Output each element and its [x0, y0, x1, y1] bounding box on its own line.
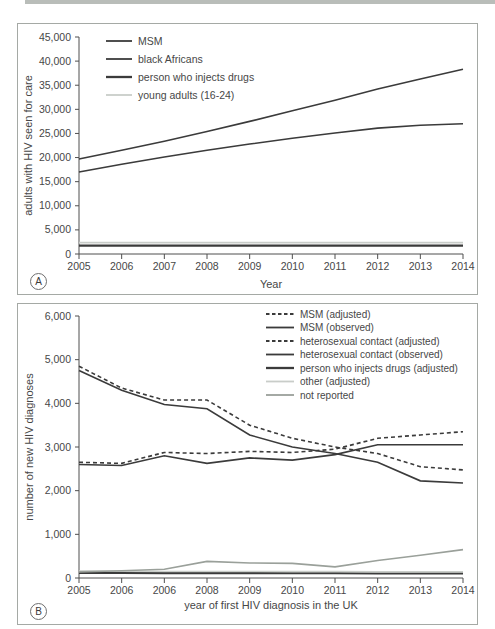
- legend-item-heterosexual-contact-adjusted: heterosexual contact (adjusted): [266, 336, 440, 347]
- x-axis-title: year of first HIV diagnosis in the UK: [184, 599, 358, 611]
- svg-text:2006: 2006: [153, 584, 177, 596]
- x-tick-labels: 2005200620072008200920102011201220132014: [67, 260, 475, 272]
- legend-item-msm-adjusted: MSM (adjusted): [266, 309, 371, 320]
- svg-text:2009: 2009: [238, 260, 262, 272]
- svg-text:2013: 2013: [409, 584, 433, 596]
- svg-text:35,000: 35,000: [39, 79, 71, 91]
- legend-label-msm: MSM: [138, 35, 163, 47]
- svg-text:0: 0: [65, 572, 71, 584]
- legend-item-black-africans: black Africans: [106, 53, 203, 65]
- x-axis-title: Year: [260, 278, 283, 290]
- legend-item-person-who-injects-drugs: person who injects drugs: [106, 71, 254, 83]
- svg-text:0: 0: [65, 248, 71, 260]
- legend-item-other-adjusted: other (adjusted): [266, 376, 370, 387]
- svg-text:4,000: 4,000: [45, 397, 71, 409]
- chart-b-canvas: 01,0002,0003,0004,0005,0006,000200520062…: [18, 304, 477, 624]
- legend-item-msm-observed: MSM (observed): [266, 322, 374, 333]
- svg-text:2008: 2008: [195, 584, 219, 596]
- legend-label-person-who-injects-drugs-adjusted: person who injects drugs (adjusted): [300, 363, 458, 374]
- svg-text:2005: 2005: [67, 584, 91, 596]
- y-tick-labels: 05,00010,00015,00020,00025,00030,00035,0…: [39, 31, 71, 260]
- legend-label-black-africans: black Africans: [138, 53, 203, 65]
- legend-label-person-who-injects-drugs: person who injects drugs: [138, 71, 254, 83]
- y-axis-title: number of new HIV diagnoses: [23, 373, 35, 521]
- legend-item-not-reported: not reported: [266, 390, 354, 401]
- page: 05,00010,00015,00020,00025,00030,00035,0…: [0, 0, 495, 629]
- svg-text:1,000: 1,000: [45, 528, 71, 540]
- svg-text:5,000: 5,000: [45, 353, 71, 365]
- legend-label-young-adults-16-24: young adults (16-24): [138, 89, 234, 101]
- legend-item-person-who-injects-drugs-adjusted: person who injects drugs (adjusted): [266, 363, 458, 374]
- svg-text:2009: 2009: [238, 584, 262, 596]
- series-line-other-adjusted: [79, 571, 463, 572]
- x-tick-labels: 2005200620062008200920102011201220132014: [67, 584, 475, 596]
- panel-a-label: A: [30, 273, 47, 290]
- panel-a-label-text: A: [35, 276, 42, 287]
- svg-text:2,000: 2,000: [45, 484, 71, 496]
- svg-text:6,000: 6,000: [45, 310, 71, 322]
- series-line-heterosexual-contact-observed: [79, 371, 463, 483]
- svg-text:40,000: 40,000: [39, 55, 71, 67]
- svg-text:2006: 2006: [110, 584, 134, 596]
- svg-text:2014: 2014: [451, 260, 475, 272]
- svg-text:15,000: 15,000: [39, 175, 71, 187]
- legend: MSM (adjusted)MSM (observed)heterosexual…: [266, 309, 458, 401]
- panel-b-label: B: [30, 603, 47, 620]
- svg-text:2012: 2012: [366, 584, 390, 596]
- y-tick-labels: 01,0002,0003,0004,0005,0006,000: [45, 310, 71, 584]
- legend-label-heterosexual-contact-adjusted: heterosexual contact (adjusted): [300, 336, 440, 347]
- legend-label-msm-adjusted: MSM (adjusted): [300, 309, 371, 320]
- page-top-rule: [25, 0, 495, 4]
- svg-text:2010: 2010: [281, 260, 305, 272]
- chart-panel-b: 01,0002,0003,0004,0005,0006,000200520062…: [17, 303, 478, 625]
- svg-text:2010: 2010: [281, 584, 305, 596]
- svg-text:2006: 2006: [110, 260, 134, 272]
- svg-text:2013: 2013: [409, 260, 433, 272]
- series-line-person-who-injects-drugs-adjusted: [79, 573, 463, 574]
- svg-text:30,000: 30,000: [39, 103, 71, 115]
- svg-text:2014: 2014: [451, 584, 475, 596]
- svg-text:2007: 2007: [153, 260, 177, 272]
- svg-text:45,000: 45,000: [39, 31, 71, 43]
- svg-text:2012: 2012: [366, 260, 390, 272]
- legend-item-young-adults-16-24: young adults (16-24): [106, 89, 234, 101]
- svg-text:5,000: 5,000: [45, 223, 71, 235]
- svg-text:10,000: 10,000: [39, 199, 71, 211]
- svg-text:20,000: 20,000: [39, 151, 71, 163]
- legend-label-msm-observed: MSM (observed): [300, 322, 374, 333]
- panel-b-label-text: B: [35, 606, 42, 617]
- chart-panel-a: 05,00010,00015,00020,00025,00030,00035,0…: [17, 23, 478, 295]
- series-line-not-reported: [79, 550, 463, 572]
- svg-text:25,000: 25,000: [39, 127, 71, 139]
- legend-label-other-adjusted: other (adjusted): [300, 376, 370, 387]
- svg-text:2011: 2011: [324, 260, 347, 272]
- series-line-msm: [79, 69, 463, 159]
- legend-item-msm: MSM: [106, 35, 163, 47]
- legend-item-heterosexual-contact-observed: heterosexual contact (observed): [266, 349, 443, 360]
- chart-a-canvas: 05,00010,00015,00020,00025,00030,00035,0…: [18, 24, 477, 294]
- svg-text:3,000: 3,000: [45, 441, 71, 453]
- legend: MSMblack Africansperson who injects drug…: [106, 35, 254, 101]
- svg-text:2005: 2005: [67, 260, 91, 272]
- legend-label-heterosexual-contact-observed: heterosexual contact (observed): [300, 349, 443, 360]
- svg-text:2011: 2011: [324, 584, 347, 596]
- y-axis-title: adults with HIV seen for care: [22, 75, 34, 216]
- svg-text:2008: 2008: [195, 260, 219, 272]
- legend-label-not-reported: not reported: [300, 390, 354, 401]
